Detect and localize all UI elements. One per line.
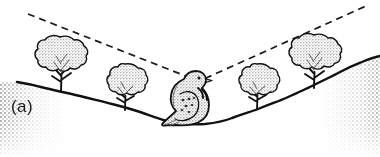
scene-illustration: (a)	[0, 0, 380, 157]
tree-2-crown	[107, 64, 148, 95]
tree-4-crown	[289, 34, 342, 70]
tree-3-crown	[239, 64, 280, 95]
dove-eye	[198, 77, 201, 80]
tree-1-crown	[35, 36, 88, 72]
figure-container: (a)	[0, 0, 380, 157]
panel-label: (a)	[11, 97, 33, 116]
